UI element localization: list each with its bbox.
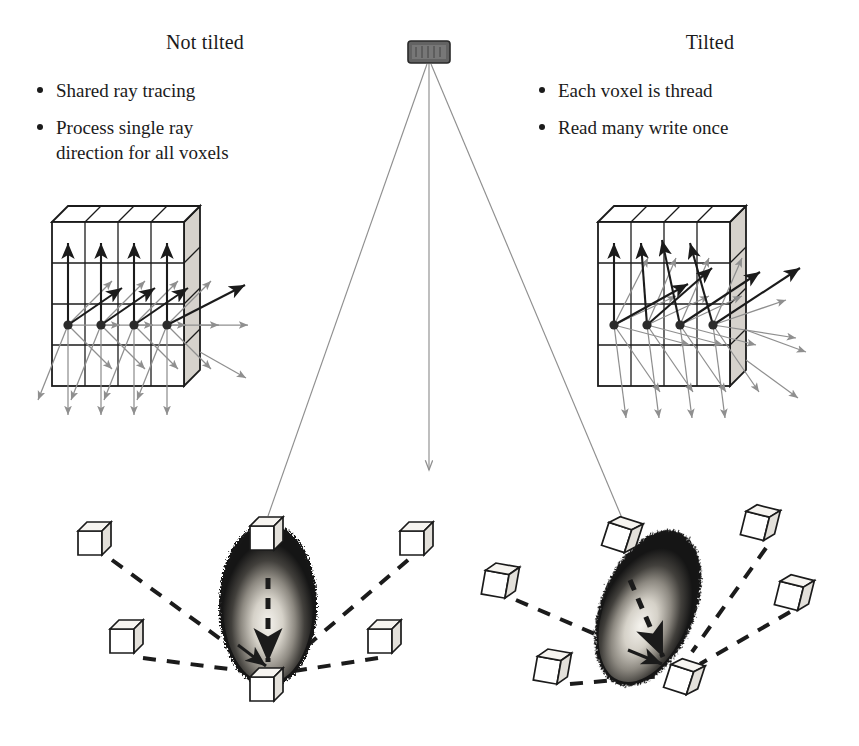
voxel-grid-tilted — [598, 206, 806, 418]
cube-bottom-left-phantom — [250, 668, 283, 701]
cube-satellite-lr-right — [774, 573, 814, 613]
bullet-list-not-tilted: Shared ray tracing Process single ray di… — [36, 78, 336, 177]
bullet-list-tilted: Each voxel is thread Read many write onc… — [538, 78, 838, 152]
cube-satellite-ur-right — [740, 503, 780, 543]
cube-bottom-right-phantom — [664, 656, 706, 698]
phantom-group-tilted — [481, 503, 814, 702]
panel-title-not-tilted: Not tilted — [95, 31, 315, 54]
bullet-text: Shared ray tracing — [56, 78, 336, 103]
cube-top-left-phantom — [250, 517, 283, 550]
cube-satellite-ul-right — [481, 561, 519, 599]
list-item: Shared ray tracing — [36, 78, 336, 103]
source-detector — [408, 41, 450, 63]
bullet-text: Process single ray — [56, 115, 336, 140]
bullet-dot-icon — [37, 87, 43, 93]
bullet-dot-icon — [37, 124, 43, 130]
list-item: Process single ray direction for all vox… — [36, 115, 336, 165]
figure-root: Not tilted Tilted Shared ray tracing Pro… — [0, 0, 859, 746]
cube-satellite-ll-left — [110, 620, 143, 653]
bullet-dot-icon — [539, 124, 545, 130]
cube-satellite-lr-left — [368, 620, 401, 653]
bullet-text: Each voxel is thread — [558, 78, 838, 103]
bullet-dot-icon — [539, 87, 545, 93]
panel-title-tilted: Tilted — [600, 31, 820, 54]
phantom-group-not-tilted — [78, 517, 433, 701]
list-item: Each voxel is thread — [538, 78, 838, 103]
bullet-text-line2: direction for all voxels — [56, 140, 336, 165]
bullet-text: Read many write once — [558, 115, 838, 140]
cube-satellite-ll-right — [533, 647, 571, 685]
cube-satellite-ur-left — [400, 522, 433, 555]
list-item: Read many write once — [538, 115, 838, 140]
voxel-grid-not-tilted — [38, 206, 248, 415]
cube-satellite-ul-left — [78, 522, 111, 555]
